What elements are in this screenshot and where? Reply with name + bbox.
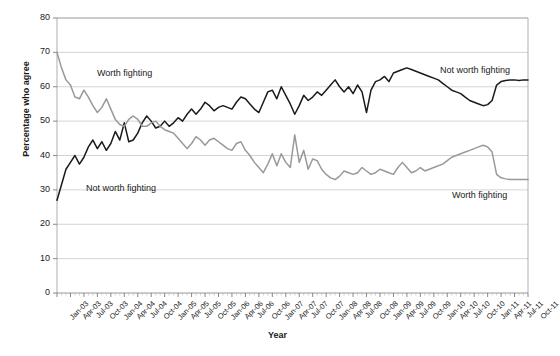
y-tick-label: 20 <box>20 218 50 228</box>
y-axis-title: Percentage who agree <box>21 39 31 179</box>
series-line-not-worth-fighting <box>57 68 528 200</box>
x-axis-title: Year <box>0 330 555 340</box>
annotation-label: Worth fighting <box>452 190 507 200</box>
annotation-label: Not worth fighting <box>86 183 156 193</box>
x-axis-ticks <box>57 293 528 297</box>
y-tick-label: 80 <box>20 12 50 22</box>
annotation-label: Not worth fighting <box>440 65 510 75</box>
annotation-label: Worth fighting <box>97 68 152 78</box>
y-tick-label: 10 <box>20 253 50 263</box>
y-tick-label: 0 <box>20 287 50 297</box>
y-tick-label: 30 <box>20 184 50 194</box>
